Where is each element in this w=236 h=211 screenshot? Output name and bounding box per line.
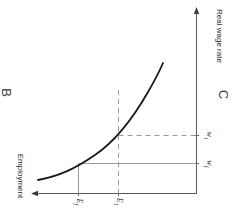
guide-lines-full-employment	[79, 164, 197, 194]
tick-label-ef-sub: f	[73, 203, 79, 205]
x-axis-arrowhead-icon	[31, 191, 38, 196]
tick-label-w1: w1	[203, 127, 213, 145]
tick-label-wf: wf	[203, 155, 213, 173]
panel-label-c: C	[217, 83, 230, 107]
tick-label-ef: Ef	[73, 193, 83, 211]
panel-label-b: B	[0, 81, 13, 105]
x-axis-title: Employment	[16, 148, 24, 204]
y-axis-arrowhead-icon	[194, 7, 199, 14]
tick-label-e1-sub: 1	[113, 203, 119, 206]
economics-chart-figure	[0, 0, 236, 211]
tick-label-e1: E1	[113, 193, 123, 211]
supply-curve	[38, 63, 163, 180]
tick-label-w1-sub: 1	[203, 137, 209, 140]
y-axis-title: Real wage rate	[215, 5, 223, 67]
guide-lines-equilibrium	[119, 90, 197, 193]
y-axis-real-wage-rate	[194, 7, 199, 194]
tick-label-wf-sub: f	[203, 166, 209, 168]
